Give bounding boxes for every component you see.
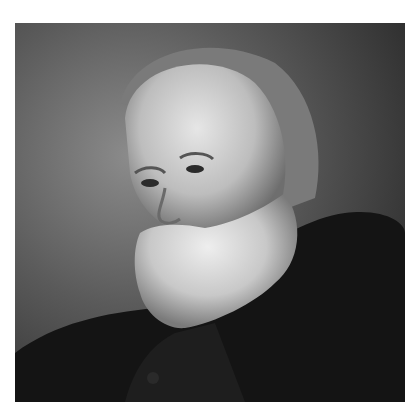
portrait-illustration <box>15 23 405 402</box>
portrait-photo <box>15 23 405 402</box>
